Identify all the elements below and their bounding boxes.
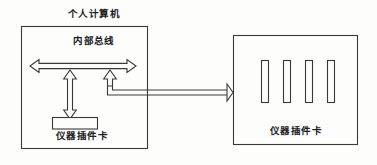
internal-instrument-card-label: 仪器插件卡: [56, 131, 108, 141]
chassis-slot-bar-3: [306, 61, 313, 103]
chassis-slot-bar-2: [284, 61, 291, 103]
internal-instrument-card: [53, 118, 98, 130]
diagram-canvas: 个人计算机 内部总线 仪器插件卡 仪器插件卡: [0, 0, 377, 165]
internal-bus-label: 内部总线: [73, 36, 115, 46]
bus-to-external-connector-arrowhead: [227, 84, 233, 101]
page-title: 个人计算机: [68, 9, 120, 19]
external-instrument-card-label: 仪器插件卡: [270, 126, 322, 136]
chassis-slot-bar-4: [328, 61, 335, 103]
chassis-slot-bar-1: [262, 61, 269, 103]
